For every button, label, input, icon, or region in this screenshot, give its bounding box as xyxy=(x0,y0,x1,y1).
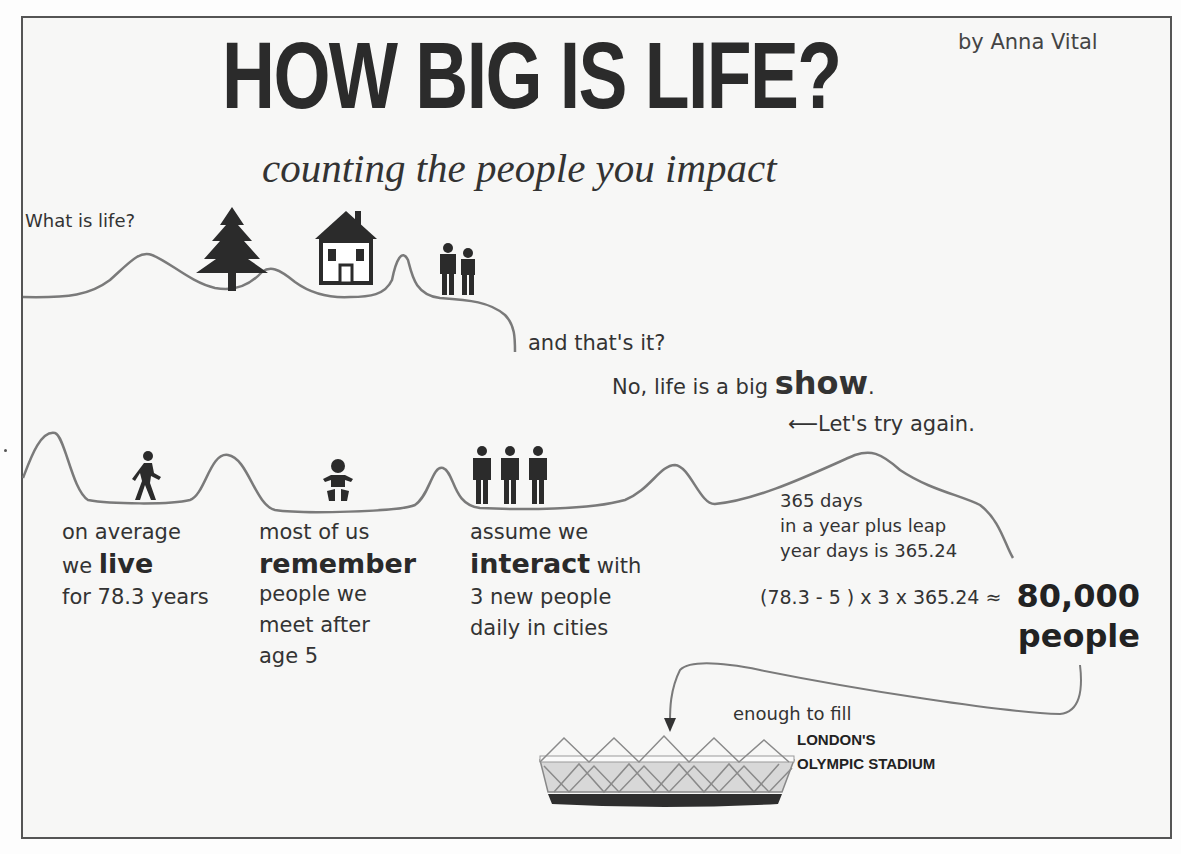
tree-icon xyxy=(192,207,272,291)
remember-emphasis: remember xyxy=(259,548,416,579)
result-unit: people xyxy=(1000,616,1140,656)
couple-icon xyxy=(437,243,479,295)
stadium-name: LONDON'S OLYMPIC STADIUM xyxy=(797,728,935,776)
subtitle: counting the people you impact xyxy=(262,144,777,192)
and-thats-it-label: and that's it? xyxy=(528,328,665,359)
step-interact: assume we interact with 3 new people dai… xyxy=(470,517,641,644)
page-title: HOW BIG IS LIFE? xyxy=(222,26,841,126)
show-emphasis: show xyxy=(775,364,868,402)
enough-to-fill-label: enough to fill xyxy=(733,703,852,724)
try-again-label: ⟵Let's try again. xyxy=(788,409,975,440)
result-number: 80,000 xyxy=(1000,576,1140,616)
walking-person-icon xyxy=(126,451,162,501)
days-explanation: 365 days in a year plus leap year days i… xyxy=(780,488,957,563)
step-remember: most of us remember people we meet after… xyxy=(259,517,416,672)
step-live: on average we live for 78.3 years xyxy=(62,517,209,613)
baby-icon xyxy=(321,459,355,503)
left-arrow-icon: ⟵ xyxy=(788,412,818,436)
interact-emphasis: interact xyxy=(470,548,590,579)
big-show-statement: No, life is a big show. xyxy=(612,368,875,403)
wave-lines xyxy=(0,0,1181,854)
what-is-life-label: What is life? xyxy=(25,210,135,231)
house-icon xyxy=(313,209,379,285)
byline: by Anna Vital xyxy=(958,30,1098,54)
three-people-icon xyxy=(470,446,552,504)
formula: (78.3 - 5 ) x 3 x 365.24 ≈ xyxy=(760,586,1001,608)
result: 80,000 people xyxy=(1000,576,1140,656)
stadium-icon xyxy=(534,730,804,812)
live-emphasis: live xyxy=(99,548,153,579)
